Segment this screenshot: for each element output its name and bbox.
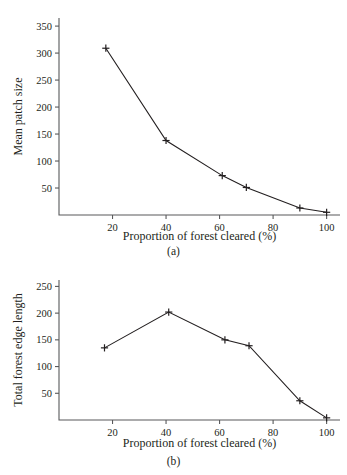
x-tick-label: 100: [319, 427, 335, 438]
x-tick-label: 20: [107, 427, 118, 438]
data-point-marker: [102, 45, 109, 52]
y-tick-label: 50: [42, 388, 53, 399]
y-tick-label: 100: [36, 361, 52, 372]
data-point-marker: [243, 184, 250, 191]
y-tick-label: 250: [36, 75, 52, 86]
total-forest-edge-length-chart: 5010015020025020406080100Proportion of f…: [0, 262, 347, 455]
y-tick-label: 200: [36, 308, 52, 319]
data-point-marker: [221, 336, 228, 343]
y-tick-label: 150: [36, 334, 52, 345]
y-tick-label: 350: [36, 21, 52, 32]
y-tick-label: 50: [42, 183, 53, 194]
y-tick-label: 200: [36, 102, 52, 113]
data-point-marker: [165, 308, 172, 315]
x-axis-title: Proportion of forest cleared (%): [123, 229, 276, 243]
y-tick-label: 150: [36, 129, 52, 140]
data-point-marker: [219, 172, 226, 179]
data-point-marker: [296, 204, 303, 211]
data-point-marker: [162, 137, 169, 144]
figure-panel-a: 5010015020025030035020406080100Proportio…: [0, 0, 347, 262]
figure-panel-b: 5010015020025020406080100Proportion of f…: [0, 262, 347, 475]
y-tick-label: 250: [36, 281, 52, 292]
y-tick-label: 300: [36, 48, 52, 59]
mean-patch-size-chart: 5010015020025030035020406080100Proportio…: [0, 0, 347, 245]
x-tick-label: 100: [319, 222, 335, 233]
panel-a-caption: (a): [0, 245, 347, 257]
data-series-line: [106, 48, 327, 212]
y-axis-title: Mean patch size: [11, 78, 25, 156]
y-tick-label: 100: [36, 156, 52, 167]
panel-b-caption: (b): [0, 455, 347, 467]
data-series-line: [105, 312, 327, 418]
x-tick-label: 20: [107, 222, 118, 233]
data-point-marker: [101, 344, 108, 351]
x-axis-title: Proportion of forest cleared (%): [123, 436, 276, 450]
y-axis-title: Total forest edge length: [11, 293, 25, 406]
